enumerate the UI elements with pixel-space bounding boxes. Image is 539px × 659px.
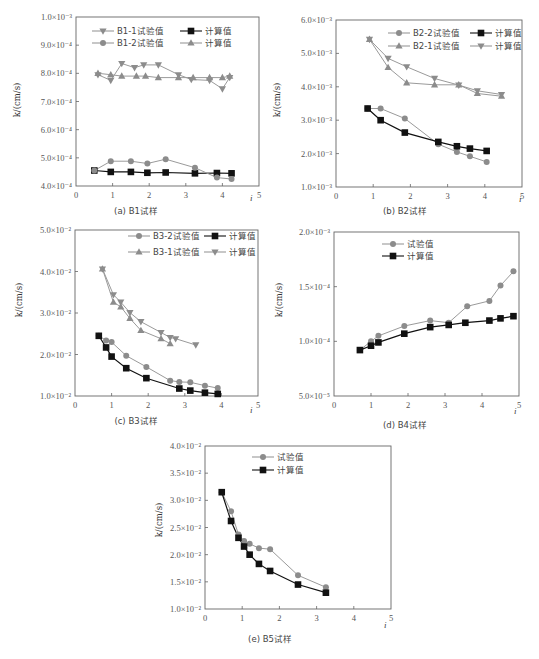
chart-caption: (d) B4试样 [383,420,427,430]
square-marker-icon [162,169,169,176]
chart-caption: (a) B1试样 [114,206,158,216]
series-markers [94,61,233,93]
y-tick-label: 1.5×10⁻² [170,577,201,587]
square-marker-icon [128,169,135,176]
circle-marker-icon [91,168,97,174]
triangle-down-marker-icon [137,319,144,325]
legend-label: 试验值 [407,239,434,249]
legend-label: B3-1试验值 [153,247,200,257]
square-marker-icon [364,105,371,112]
triangle-down-marker-icon [477,43,484,49]
x-tick-label: 4 [219,400,224,410]
circle-marker-icon [192,165,198,171]
y-tick-label: 4.0×10⁻² [170,441,201,451]
square-marker-icon [402,129,409,136]
triangle-up-marker-icon [395,42,402,48]
legend-item: B3-1试验值 [128,247,200,257]
square-marker-icon [187,387,194,394]
legend-label: B1-1试验值 [117,26,164,36]
circle-marker-icon [295,572,301,578]
y-tick-label: 4.0×10⁻⁴ [41,181,72,191]
square-marker-icon [375,339,382,346]
series-line [94,159,231,179]
triangle-down-marker-icon [211,249,218,255]
circle-marker-icon [390,241,396,247]
triangle-up-marker-icon [133,72,140,78]
circle-marker-icon [486,298,492,304]
legend-label: B3-2试验值 [153,231,200,241]
series-line [368,109,487,151]
circle-marker-icon [401,323,407,329]
y-tick-label: 3.0×10⁻³ [301,115,332,125]
chart-panel-b: 0123451.0×10⁻³2.0×10⁻³3.0×10⁻³4.0×10⁻³5.… [272,15,524,216]
y-tick-label: 4.0×10⁻³ [301,82,332,92]
y-tick-label: 1.0×10⁻³ [301,182,332,192]
y-tick-label: 3.0×10⁻² [170,495,201,505]
y-tick-label: 2.5×10⁻² [170,523,201,533]
chart-panel-c: 0123451.0×10⁻²2.0×10⁻²3.0×10⁻²4.0×10⁻²5.… [14,225,260,426]
y-tick-label: 5.0×10⁻⁵ [299,391,330,401]
circle-marker-icon [215,385,221,391]
y-axis-label: k/(cm/s) [154,503,164,538]
triangle-down-marker-icon [99,28,106,34]
y-tick-label: 3.0×10⁻² [40,308,71,318]
legend-item: B1-2试验值 [92,38,164,48]
series-line [99,336,218,394]
legend-label: B1-2试验值 [117,38,164,48]
y-axis-label: k/(cm/s) [14,283,24,318]
legend-label: 计算值 [205,38,232,48]
square-marker-icon [241,543,248,550]
circle-marker-icon [123,353,129,359]
triangle-down-marker-icon [192,342,199,348]
series-markers [357,313,517,353]
square-marker-icon [478,30,485,37]
y-tick-label: 5.0×10⁻² [40,225,71,235]
legend-label: B2-2试验值 [413,28,460,38]
square-marker-icon [483,148,490,155]
square-marker-icon [390,253,397,260]
square-marker-icon [246,551,253,558]
square-marker-icon [103,344,110,351]
circle-marker-icon [100,40,106,46]
y-tick-label: 2.0×10⁻³ [299,227,330,237]
chart-panel-d: 0123455.0×10⁻⁵1.0×10⁻⁴1.5×10⁻⁴2.0×10⁻³试验… [274,227,521,430]
square-marker-icon [228,170,235,177]
y-tick-label: 1.0×10⁻² [40,391,71,401]
y-axis-label: k/(cm/s) [12,83,22,118]
triangle-down-marker-icon [99,266,106,272]
legend-item: 计算值 [204,247,256,257]
circle-marker-icon [187,379,193,385]
x-tick-label: 2 [406,400,410,410]
square-marker-icon [107,169,114,176]
x-tick-label: 0 [73,400,77,410]
circle-marker-icon [241,538,247,544]
circle-marker-icon [136,233,142,239]
triangle-up-marker-icon [135,248,142,254]
triangle-down-marker-icon [157,330,164,336]
legend-label: B2-1试验值 [413,41,460,51]
y-tick-label: 5.0×10⁻³ [301,48,332,58]
square-marker-icon [176,385,183,392]
series-markers [99,265,174,346]
square-marker-icon [123,365,130,372]
square-marker-icon [108,353,115,360]
x-tick-label: 0 [74,190,78,200]
x-tick-label: 2 [146,400,150,410]
square-marker-icon [357,347,364,354]
figure-canvas: 0123454.0×10⁻⁴5.0×10⁻⁴6.0×10⁻⁴7.0×10⁻⁴8.… [0,0,539,659]
y-tick-label: 5.0×10⁻⁴ [41,153,72,163]
x-tick-label: 2 [147,190,151,200]
square-marker-icon [214,391,221,398]
x-tick-label: 5 [256,400,260,410]
circle-marker-icon [144,160,150,166]
y-tick-label: 9.0×10⁻⁴ [41,40,72,50]
legend-item: B2-2试验值 [388,28,460,38]
circle-marker-icon [108,158,114,164]
legend-label: 计算值 [205,26,232,36]
legend-item: 计算值 [470,41,522,51]
circle-marker-icon [229,176,235,182]
triangle-up-marker-icon [403,79,410,85]
square-marker-icon [497,315,504,322]
chart-panel-e: 0123451.0×10⁻²1.5×10⁻²2.0×10⁻²2.5×10⁻²3.… [154,441,393,644]
x-tick-label: 4 [220,190,225,200]
